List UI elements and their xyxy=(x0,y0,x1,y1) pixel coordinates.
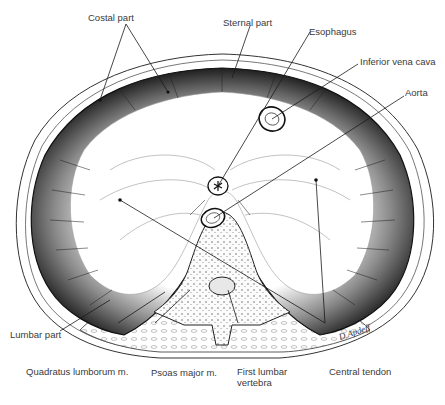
diaphragm-diagram: D.Apdeff Costal part Sternal part Esopha… xyxy=(0,0,445,405)
label-aorta: Aorta xyxy=(405,87,428,98)
label-sternal-part: Sternal part xyxy=(223,17,272,28)
label-lumbar-part: Lumbar part xyxy=(10,329,61,340)
label-psoas-major: Psoas major m. xyxy=(151,367,217,378)
label-costal-part: Costal part xyxy=(88,12,134,23)
label-central-tendon: Central tendon xyxy=(329,366,391,377)
label-inferior-vena-cava: Inferior vena cava xyxy=(360,56,436,67)
label-esophagus: Esophagus xyxy=(309,26,357,37)
spinal-canal xyxy=(209,277,235,295)
label-first-lumbar-vertebra: First lumbar vertebra xyxy=(237,366,297,388)
label-quadratus-lumborum: Quadratus lumborum m. xyxy=(26,366,128,377)
